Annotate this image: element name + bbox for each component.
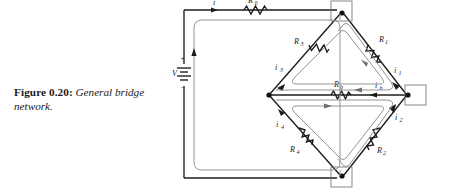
resistor-r4-label: R [289,145,295,154]
resistor-r0-label: R [247,0,253,5]
node-right-dot [405,92,410,97]
resistor-r1: R 1 [366,35,388,62]
figure-colon: : [69,86,73,98]
current-ib-label: i [375,81,378,90]
current-i-arrowhead [211,7,218,12]
current-i1-label: i [394,66,397,75]
battery-plus-sign: + [181,55,185,63]
voltage-source-battery: + − V [172,55,191,92]
current-i4-label: i [276,120,279,129]
figure-caption: Figure 0.20: General bridge network. [14,86,166,113]
mesh-loop-lower-path [292,106,383,160]
resistor-r0-subscript: 0 [255,0,258,6]
bridge-circuit-diagram: + − V R 0 i R 3 i 3 [172,0,452,189]
current-i-annotation: i [211,0,218,13]
current-i-label: i [213,0,216,7]
current-i1-subscript: 1 [399,70,402,76]
current-i2-annotation: i 2 [389,104,403,123]
wire-bridge-lower-right [344,96,406,175]
current-i3-subscript: 3 [279,67,283,73]
resistor-r2-label: R [376,146,382,155]
resistor-r1-subscript: 1 [385,39,388,45]
wire-bridge-upper-left [269,14,340,95]
current-i2-label: i [395,113,398,122]
current-ib-arrowhead [369,92,377,97]
mesh-loop-lower-arrowhead [324,103,332,108]
resistor-r4-subscript: 4 [297,149,300,155]
figure-number: Figure 0.20 [14,86,69,98]
mesh-loop-upper-arrowhead [361,60,368,68]
mesh-loop-right-arrowhead [354,87,362,92]
mesh-loop-upper-path [292,31,383,85]
current-i4-subscript: 4 [281,124,284,130]
current-i2-subscript: 2 [400,117,403,123]
battery-minus-sign: − [181,84,185,92]
node-top [331,1,352,21]
mesh-loop-upper [292,31,383,85]
mesh-loop-outer-arrowhead [191,48,196,56]
resistor-r0: R 0 [244,0,267,14]
resistor-r3-subscript: 3 [300,41,304,47]
resistor-r3: R 3 [293,37,329,52]
resistor-r3-label: R [293,37,299,46]
figure-container: Figure 0.20: General bridge network. + −… [0,0,452,189]
resistor-rb-label: R [333,80,339,89]
current-i3-label: i [275,63,278,72]
node-right [405,85,426,105]
current-i1-arrowhead [392,82,400,90]
node-left-dot [266,92,271,97]
resistor-rb: R b [331,80,351,99]
mesh-loop-lower [292,103,383,159]
resistor-r2-subscript: 2 [383,150,386,156]
resistor-r1-label: R [378,35,384,44]
wire-bridge-lower-left [269,95,340,175]
